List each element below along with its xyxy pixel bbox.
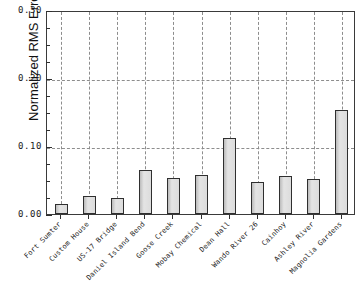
bar [111, 198, 124, 214]
y-tick-mark [46, 79, 52, 80]
y-tick-minor [46, 62, 50, 63]
y-tick-label: 0.10 [18, 141, 42, 151]
bar [335, 110, 348, 214]
y-tick-minor [46, 113, 50, 114]
y-tick-minor [46, 96, 50, 97]
x-tick-mark [257, 215, 258, 219]
bar [83, 196, 96, 214]
gridline-horizontal [47, 80, 354, 81]
y-tick-minor [46, 164, 50, 165]
y-tick-minor [46, 28, 50, 29]
y-tick-minor [46, 130, 50, 131]
y-tick-mark [46, 11, 52, 12]
gridline-vertical [61, 12, 62, 214]
y-tick-label: 0.20 [18, 73, 42, 83]
y-tick-label: 0.30 [18, 5, 42, 15]
plot-inner [47, 12, 354, 214]
x-tick-mark [60, 215, 61, 219]
bar [251, 182, 264, 214]
x-tick-mark [229, 215, 230, 219]
x-tick-mark [285, 215, 286, 219]
x-tick-mark [172, 215, 173, 219]
bar-chart: Normalized RMS Error 0.000.100.200.30 Fo… [0, 0, 363, 291]
bar [195, 175, 208, 214]
bar [223, 138, 236, 214]
y-tick-mark [46, 215, 52, 216]
x-tick-mark [341, 215, 342, 219]
bar [307, 179, 320, 214]
y-tick-label: 0.00 [18, 209, 42, 219]
gridline-horizontal [47, 148, 354, 149]
x-tick-mark [116, 215, 117, 219]
x-tick-mark [201, 215, 202, 219]
plot-area [46, 11, 355, 215]
y-tick-minor [46, 45, 50, 46]
gridline-vertical [89, 12, 90, 214]
x-tick-mark [313, 215, 314, 219]
bar [139, 170, 152, 214]
x-tick-mark [88, 215, 89, 219]
bar [279, 176, 292, 214]
y-tick-mark [46, 147, 52, 148]
gridline-vertical [117, 12, 118, 214]
bar [55, 204, 68, 214]
bar [167, 178, 180, 214]
y-tick-minor [46, 198, 50, 199]
x-tick-mark [144, 215, 145, 219]
y-tick-minor [46, 181, 50, 182]
